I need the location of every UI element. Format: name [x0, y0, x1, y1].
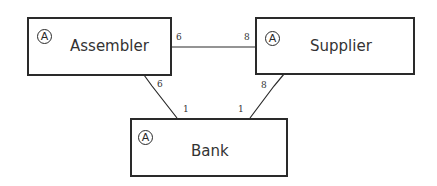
multiplicity-label: 1	[183, 104, 189, 114]
actor-badge-icon: A	[37, 29, 52, 44]
diagram-canvas: A Assembler A Supplier A Bank 6 8 6 1 8 …	[0, 0, 437, 186]
multiplicity-label: 8	[261, 80, 267, 90]
multiplicity-label: 6	[176, 32, 182, 42]
multiplicity-label: 1	[238, 104, 244, 114]
node-supplier[interactable]: A Supplier	[255, 17, 415, 75]
node-label: Supplier	[310, 37, 372, 55]
edge-supplier-bank	[250, 74, 284, 118]
multiplicity-label: 6	[157, 79, 163, 89]
node-assembler[interactable]: A Assembler	[27, 17, 172, 76]
multiplicity-label: 8	[244, 32, 250, 42]
node-bank[interactable]: A Bank	[130, 118, 288, 177]
node-label: Bank	[191, 142, 229, 160]
actor-badge-icon: A	[265, 31, 280, 46]
actor-badge-icon: A	[138, 130, 153, 145]
node-label: Assembler	[70, 37, 149, 55]
